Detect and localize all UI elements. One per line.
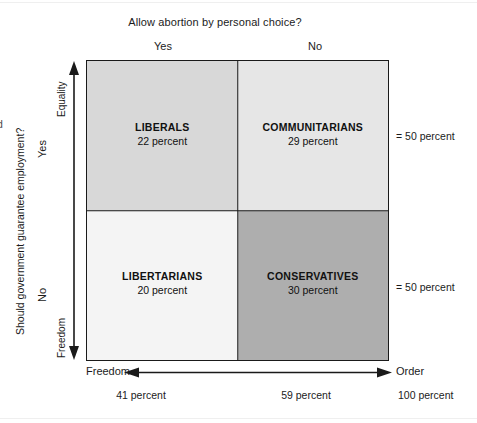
row-total-top: = 50 percent	[396, 130, 455, 142]
quadrant-communitarians-name: COMMUNITARIANS	[238, 120, 389, 134]
column-total-left: 41 percent	[105, 389, 177, 401]
quadrant-communitarians-percent: 29 percent	[238, 134, 389, 148]
quadrant-liberals-label: LIBERALS 22 percent	[87, 120, 238, 148]
quadrant-conservatives-percent: 30 percent	[238, 283, 389, 297]
clipped-margin-glyph: d	[0, 118, 3, 130]
y-axis-top-end-label: Equality	[56, 81, 67, 117]
y-axis-double-arrow	[66, 60, 82, 361]
x-axis-right-end-label: Order	[396, 365, 424, 377]
x-axis-double-arrow	[124, 366, 392, 379]
row-total-bottom: = 50 percent	[396, 281, 455, 293]
row-label-no: No	[36, 288, 48, 302]
quadrant-libertarians-label: LIBERTARIANS 20 percent	[87, 269, 238, 297]
quadrant-conservatives-label: CONSERVATIVES 30 percent	[238, 269, 389, 297]
quadrant-libertarians-percent: 20 percent	[87, 283, 238, 297]
quadrant-liberals: LIBERALS 22 percent	[87, 61, 238, 211]
column-total-right: 59 percent	[270, 389, 342, 401]
political-ideology-quadrant-figure: Allow abortion by personal choice? Yes N…	[0, 0, 477, 423]
y-axis-title: Should government guarantee employment?	[14, 128, 26, 335]
column-header-no: No	[280, 40, 350, 52]
quadrant-conservatives: CONSERVATIVES 30 percent	[238, 211, 389, 361]
page-rule-top	[0, 2, 477, 3]
column-header-yes: Yes	[128, 40, 198, 52]
quadrant-conservatives-name: CONSERVATIVES	[238, 269, 389, 283]
quadrant-libertarians-name: LIBERTARIANS	[87, 269, 238, 283]
row-label-yes: Yes	[36, 140, 48, 158]
quadrant-libertarians: LIBERTARIANS 20 percent	[87, 211, 238, 361]
page-rule-bottom	[0, 418, 477, 419]
chart-title: Allow abortion by personal choice?	[0, 16, 430, 28]
grand-total: 100 percent	[398, 389, 474, 401]
quadrant-communitarians-label: COMMUNITARIANS 29 percent	[238, 120, 389, 148]
quadrant-liberals-percent: 22 percent	[87, 134, 238, 148]
quadrant-communitarians: COMMUNITARIANS 29 percent	[238, 61, 389, 211]
y-axis-bottom-end-label: Freedom	[56, 318, 67, 358]
plot-area: LIBERALS 22 percent COMMUNITARIANS 29 pe…	[86, 60, 389, 361]
quadrant-divider-horizontal	[87, 210, 388, 212]
quadrant-liberals-name: LIBERALS	[87, 120, 238, 134]
